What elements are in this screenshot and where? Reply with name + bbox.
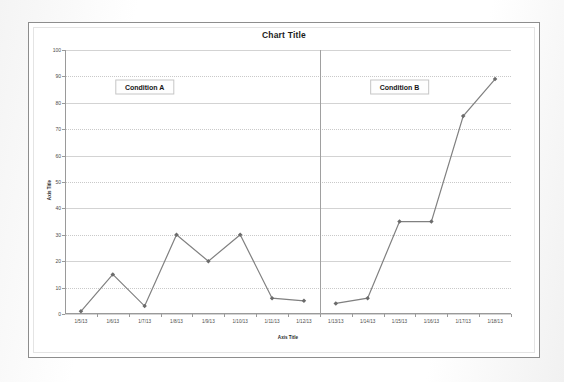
x-tick-label: 1/12/13 <box>296 319 311 324</box>
x-tick-mark <box>352 314 353 317</box>
x-tick-mark <box>97 314 98 317</box>
data-point-marker <box>397 219 402 224</box>
y-tick-label: 50 <box>55 179 61 185</box>
x-tick-mark <box>384 314 385 317</box>
y-tick-label: 90 <box>55 73 61 79</box>
x-tick-label: 1/8/13 <box>170 319 183 324</box>
x-tick-mark <box>129 314 130 317</box>
data-point-marker <box>365 296 370 301</box>
y-tick-label: 10 <box>55 285 61 291</box>
condition-label-box[interactable]: Condition A <box>115 79 174 94</box>
x-tick-label: 1/13/13 <box>328 319 343 324</box>
y-tick-label: 0 <box>58 311 61 317</box>
data-point-marker <box>334 301 339 306</box>
y-tick-label: 100 <box>53 47 61 53</box>
y-tick-label: 60 <box>55 153 61 159</box>
x-tick-mark <box>415 314 416 317</box>
x-tick-mark <box>479 314 480 317</box>
y-tick-label: 30 <box>55 232 61 238</box>
x-tick-mark <box>320 314 321 317</box>
x-axis-title: Axis Title <box>65 335 511 340</box>
data-point-marker <box>429 219 434 224</box>
y-tick-label: 80 <box>55 100 61 106</box>
x-tick-label: 1/15/13 <box>392 319 407 324</box>
x-tick-label: 1/17/13 <box>456 319 471 324</box>
y-tick-label: 70 <box>55 126 61 132</box>
x-tick-label: 1/18/13 <box>487 319 502 324</box>
x-tick-label: 1/10/13 <box>233 319 248 324</box>
chart-object-frame[interactable]: Chart Title Axis Title Axis Title 010203… <box>28 22 540 358</box>
plot-area[interactable]: 0102030405060708090100 1/5/131/6/131/7/1… <box>65 50 511 314</box>
x-tick-label: 1/6/13 <box>106 319 119 324</box>
x-tick-mark <box>511 314 512 317</box>
x-tick-label: 1/16/13 <box>424 319 439 324</box>
series-line <box>336 79 495 303</box>
x-tick-mark <box>256 314 257 317</box>
data-point-marker <box>270 296 275 301</box>
x-tick-label: 1/14/13 <box>360 319 375 324</box>
x-tick-mark <box>447 314 448 317</box>
x-tick-label: 1/9/13 <box>202 319 215 324</box>
chart-screenshot: Chart Title Axis Title Axis Title 010203… <box>0 0 564 382</box>
y-axis-title: Axis Title <box>47 180 52 200</box>
x-tick-mark <box>224 314 225 317</box>
x-tick-label: 1/7/13 <box>138 319 151 324</box>
x-tick-mark <box>192 314 193 317</box>
condition-label-box[interactable]: Condition B <box>370 79 430 94</box>
y-tick-mark <box>62 314 65 315</box>
x-tick-mark <box>288 314 289 317</box>
y-tick-label: 40 <box>55 205 61 211</box>
y-tick-label: 20 <box>55 258 61 264</box>
x-tick-label: 1/11/13 <box>265 319 280 324</box>
chart-title: Chart Title <box>29 30 539 40</box>
series-line <box>81 235 304 312</box>
data-point-marker <box>302 299 307 304</box>
x-tick-mark <box>161 314 162 317</box>
x-tick-label: 1/5/13 <box>75 319 88 324</box>
